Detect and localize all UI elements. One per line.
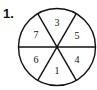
spinner-diagram: 3 5 4 1 6 7 xyxy=(0,0,97,90)
sector-label-bottom: 1 xyxy=(55,65,60,76)
sector-label-upper-left: 7 xyxy=(34,29,39,40)
sector-label-upper-right: 5 xyxy=(75,30,80,41)
sector-label-lower-right: 4 xyxy=(75,54,80,65)
sector-label-lower-left: 6 xyxy=(34,54,39,65)
sector-label-top: 3 xyxy=(55,17,60,28)
